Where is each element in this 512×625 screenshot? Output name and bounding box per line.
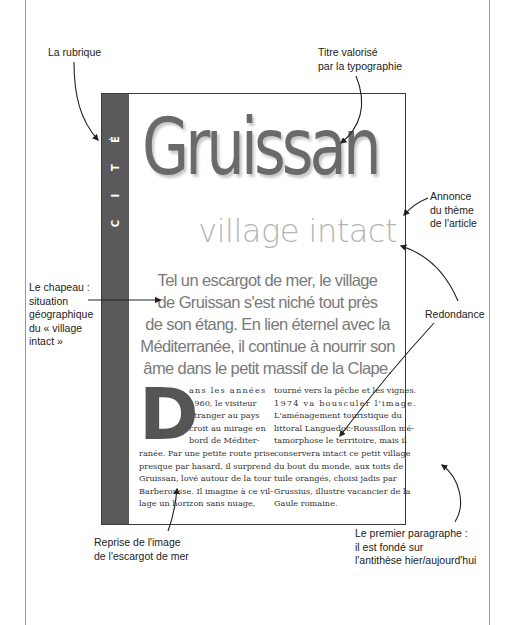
rubrique-label: C I T É [102, 122, 129, 232]
annotation-line: Redondance [425, 308, 485, 322]
annotation-annonce: Annonce du thème de l'article [430, 190, 477, 231]
page-frame-right-border [489, 0, 490, 625]
annotation-redondance: Redondance [425, 308, 485, 322]
body-line: littoral Languedoc-Roussillon mé- [274, 422, 401, 435]
annotation-line: du « village [29, 322, 93, 336]
body-line: du bout du monde, aux toits de [274, 460, 401, 473]
body-column-left: D ans les années 1960, le visiteur étran… [139, 384, 266, 510]
annotation-premier-paragraphe: Le premier paragraphe : il est fondé sur… [355, 527, 476, 568]
page-frame-left-border [25, 0, 26, 625]
body-line: L'aménagement touristique du [274, 409, 401, 422]
annotation-line: géographique [29, 308, 93, 322]
annotation-reprise: Reprise de l'image de l'escargot de mer [94, 536, 189, 563]
body-line: Barberousse. Il imagine à ce vil- [139, 485, 266, 498]
annotation-line: Titre valorisé [318, 46, 402, 60]
rubrique-letter: I [110, 182, 121, 209]
article-body: D ans les années 1960, le visiteur étran… [139, 384, 401, 519]
body-column-right: tourné vers la pêche et les vignes. 1974… [274, 384, 401, 510]
article-panel: C I T É Gruissan village intact Tel un e… [101, 93, 406, 525]
body-line: conservera intact ce petit village [274, 447, 401, 460]
annotation-line: l'antithèse hier/aujourd'hui [355, 554, 476, 568]
arrow-annonce-icon [404, 198, 428, 215]
article-subtitle: village intact [198, 215, 397, 247]
arrow-premier-paragraphe-icon [442, 465, 461, 522]
body-line: 1974 va bousculer l'image. [274, 397, 401, 410]
annotation-titre: Titre valorisé par la typographie [318, 46, 402, 73]
arrow-rubrique-icon [74, 62, 98, 140]
rubrique-letter: É [110, 126, 121, 153]
annotation-line: situation [29, 295, 93, 309]
annotation-line: La rubrique [48, 46, 101, 60]
annotation-line: Le chapeau : [29, 281, 93, 295]
annotation-line: de l'escargot de mer [94, 550, 189, 564]
annotation-line: de l'article [430, 217, 477, 231]
rubrique-band: C I T É [102, 94, 129, 524]
annotation-line: intact » [29, 335, 93, 349]
body-line: Gaule romaine. [274, 497, 401, 510]
arrow-redondance-top-icon [401, 246, 458, 301]
body-line: lage un horizon sans nuage, [139, 497, 266, 510]
drop-cap: D [139, 386, 183, 443]
annotation-line: Reprise de l'image [94, 536, 189, 550]
chapeau-line: Tel un escargot de mer, le village [130, 269, 405, 291]
chapeau: Tel un escargot de mer, le village de Gr… [130, 269, 405, 379]
annotation-line: par la typographie [318, 60, 402, 74]
article-title: Gruissan [142, 108, 378, 186]
annotation-chapeau: Le chapeau : situation géographique du «… [29, 281, 93, 349]
chapeau-line: de son étang. En lien éternel avec la [130, 313, 405, 335]
annotation-line: Annonce [430, 190, 477, 204]
rubrique-letter: T [110, 154, 121, 181]
body-line: presque par hasard, il surprend [139, 460, 266, 473]
chapeau-line: de Gruissan s'est niché tout près [130, 291, 405, 313]
chapeau-line: Méditerranée, il continue à nourrir son [130, 335, 405, 357]
body-line: Gruissan, lové autour de la tour [139, 472, 266, 485]
rubrique-letter: C [110, 210, 121, 237]
annotation-line: Le premier paragraphe : [355, 527, 476, 541]
annotation-line: du thème [430, 204, 477, 218]
body-line: tamorphose le territoire, mais il [274, 434, 401, 447]
body-line: tuile orangés, choisi jadis par [274, 472, 401, 485]
body-line: tourné vers la pêche et les vignes. [274, 384, 401, 397]
annotation-line: il est fondé sur [355, 541, 476, 555]
annotation-rubrique: La rubrique [48, 46, 101, 60]
body-line: Grussius, illustre vacancier de la [274, 485, 401, 498]
